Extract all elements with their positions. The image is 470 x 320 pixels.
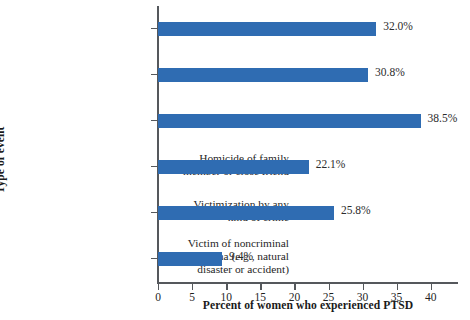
bar: [158, 22, 376, 36]
x-axis-tick: [226, 283, 227, 290]
bar-row: Other sexual assault 30.8%: [158, 52, 458, 98]
bar-value-label: 32.0%: [383, 20, 413, 32]
bar: [158, 160, 309, 174]
bar-row: Homicide of family member or close frien…: [158, 144, 458, 190]
x-axis-tick: [329, 283, 330, 290]
x-axis-title: Percent of women who experienced PTSD: [158, 299, 458, 312]
bar: [158, 252, 222, 266]
bar-value-label: 22.1%: [316, 158, 346, 170]
plot-area: Rape 32.0% Other sexual assault 30.8% Ph…: [158, 6, 458, 282]
bar-value-label: 30.8%: [375, 66, 405, 78]
y-axis-title: Type of event: [0, 0, 62, 320]
x-axis-tick: [397, 283, 398, 290]
bar-value-label: 9.4%: [229, 250, 253, 262]
bar-value-label: 25.8%: [341, 204, 371, 216]
bar-row: Victimization by any kind of crime 25.8%: [158, 190, 458, 236]
x-axis-tick: [192, 283, 193, 290]
x-axis-tick: [158, 283, 159, 290]
bar: [158, 68, 368, 82]
bar-row: Physical assault 38.5%: [158, 98, 458, 144]
x-axis-tick: [260, 283, 261, 290]
x-axis-tick: [294, 283, 295, 290]
bar: [158, 206, 334, 220]
bar-chart: Type of event Rape 32.0% Other sexual as…: [0, 0, 470, 320]
bar-row: Victim of noncriminal trauma (e.g., natu…: [158, 236, 458, 282]
bar: [158, 114, 421, 128]
x-axis-tick: [431, 283, 432, 290]
x-axis-tick: [363, 283, 364, 290]
bar-value-label: 38.5%: [428, 112, 458, 124]
bar-row: Rape 32.0%: [158, 6, 458, 52]
x-axis-line: [157, 282, 458, 284]
